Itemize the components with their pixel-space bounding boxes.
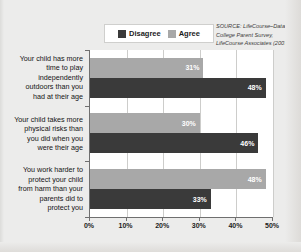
category-label-line: from harm than your: [0, 184, 83, 194]
category-label-3: You work harder toprotect your childfrom…: [0, 165, 83, 213]
bar-value-label: 31%: [185, 64, 199, 71]
bar-disagree-1[interactable]: 48%: [90, 78, 266, 98]
x-tick-label-20pct: 20%: [149, 222, 175, 229]
category-label-line: time to play: [0, 63, 83, 73]
category-label-line: you did when you: [0, 134, 83, 144]
bar-value-label: 30%: [182, 120, 196, 127]
bar-agree-1[interactable]: 31%: [90, 58, 203, 78]
gridline-50pct: [273, 50, 274, 217]
category-label-2: Your child takes morephysical risks than…: [0, 115, 83, 153]
page-right-gutter: [285, 0, 301, 252]
x-axis-line: [89, 217, 273, 218]
legend-item-agree: Agree: [168, 30, 200, 38]
category-label-line: outdoors than you: [0, 82, 83, 92]
x-tick-mark-40pct: [235, 217, 236, 221]
y-axis-tick-3: [85, 217, 89, 218]
legend-swatch-disagree: [118, 30, 126, 38]
category-label-line: had at their age: [0, 92, 83, 102]
y-axis-tick-2: [85, 161, 89, 162]
category-label-line: protect you: [0, 203, 83, 213]
x-tick-mark-0pct: [89, 217, 90, 221]
x-tick-mark-50pct: [272, 217, 273, 221]
bar-group-2: 30%46%: [90, 106, 273, 162]
bar-disagree-3[interactable]: 33%: [90, 189, 211, 209]
chart-figure: Disagree Agree SOURCE: LifeCourse–Datate…: [0, 0, 301, 252]
x-tick-label-10pct: 10%: [113, 222, 139, 229]
legend-label-disagree: Disagree: [129, 30, 161, 38]
category-label-line: physical risks than: [0, 124, 83, 134]
bar-agree-3[interactable]: 48%: [90, 169, 266, 189]
category-label-line: You work harder to: [0, 165, 83, 175]
bar-group-3: 48%33%: [90, 161, 273, 217]
bar-value-label: 33%: [193, 196, 207, 203]
legend-item-disagree: Disagree: [118, 30, 161, 38]
plot-area: 31%48%30%46%48%33%: [89, 50, 273, 217]
category-label-line: independently: [0, 73, 83, 83]
x-tick-mark-30pct: [199, 217, 200, 221]
category-label-line: Your child takes more: [0, 115, 83, 125]
category-axis-labels: Your child has moretime to playindepende…: [0, 50, 86, 217]
y-axis-tick-1: [85, 106, 89, 107]
category-label-1: Your child has moretime to playindepende…: [0, 54, 83, 102]
x-tick-label-30pct: 30%: [186, 222, 212, 229]
x-tick-label-0pct: 0%: [76, 222, 102, 229]
bar-group-1: 31%48%: [90, 50, 273, 106]
legend-label-agree: Agree: [179, 30, 200, 38]
x-tick-mark-20pct: [162, 217, 163, 221]
bar-agree-2[interactable]: 30%: [90, 113, 200, 133]
bar-disagree-2[interactable]: 46%: [90, 133, 258, 153]
category-label-line: parents did to: [0, 194, 83, 204]
page-bottom-gutter: [0, 242, 301, 252]
bar-value-label: 48%: [248, 84, 262, 91]
bar-value-label: 46%: [240, 140, 254, 147]
chart-legend: Disagree Agree: [104, 24, 214, 43]
category-label-line: were their age: [0, 143, 83, 153]
category-label-line: protect your child: [0, 175, 83, 185]
category-label-line: Your child has more: [0, 54, 83, 64]
legend-swatch-agree: [168, 30, 176, 38]
y-axis-tick-0: [85, 50, 89, 51]
bar-value-label: 48%: [248, 176, 262, 183]
x-tick-mark-10pct: [126, 217, 127, 221]
x-tick-label-50pct: 50%: [259, 222, 285, 229]
x-tick-label-40pct: 40%: [222, 222, 248, 229]
